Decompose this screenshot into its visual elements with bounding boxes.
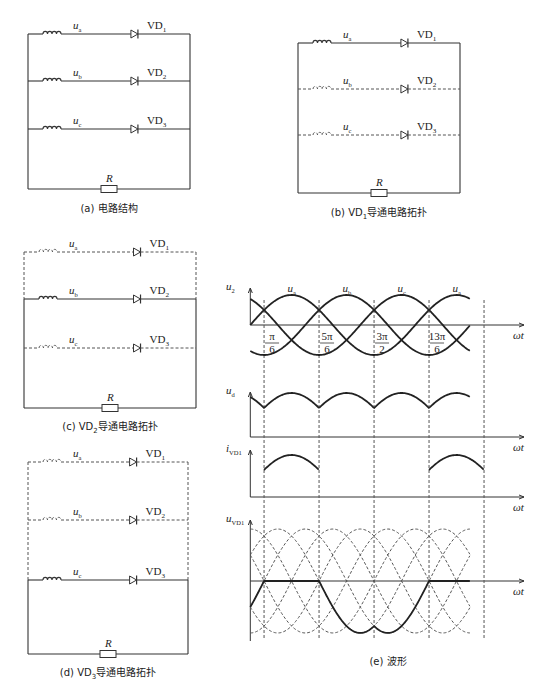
- diode-label: VD2: [147, 66, 167, 81]
- resistor-icon: [101, 186, 117, 193]
- curve-label: ua: [288, 282, 297, 296]
- inductor-icon: [313, 40, 331, 43]
- branch-b: ubVD2: [24, 284, 196, 304]
- resistor-label: R: [375, 176, 383, 188]
- waveform-panel: u2ωtudωtiVD1ωtuVD1ωtπ65π63π213π6uaubucua…: [226, 280, 525, 667]
- branch-a: uaVD1: [28, 19, 190, 39]
- circuit-panels: uaVD1ubVD2ucVD3R(a) 电路结构uaVD1ubVD2ucVD3R…: [24, 19, 460, 681]
- branch-a: uaVD1: [298, 28, 460, 48]
- diode-label: VD2: [417, 74, 437, 89]
- inductor-icon: [43, 517, 61, 520]
- diode-label: VD3: [146, 565, 166, 580]
- inductor-icon: [39, 345, 57, 348]
- y-axis-label: u2: [226, 280, 235, 294]
- voltage-label: ub: [73, 505, 82, 519]
- figure-canvas: uaVD1ubVD2ucVD3R(a) 电路结构uaVD1ubVD2ucVD3R…: [0, 0, 549, 691]
- resistor-label: R: [105, 172, 113, 184]
- voltage-label: ua: [73, 19, 82, 33]
- curve-label: uc: [398, 282, 407, 296]
- branch-b: ubVD2: [28, 66, 190, 86]
- circuit-a: uaVD1ubVD2ucVD3R(a) 电路结构: [28, 19, 190, 214]
- inductor-icon: [39, 249, 57, 252]
- plot-2: udωt: [226, 384, 525, 453]
- branch-b: ubVD2: [298, 74, 460, 94]
- inductor-icon: [43, 577, 61, 580]
- caption-e: (e) 波形: [369, 655, 406, 667]
- inductor-icon: [313, 132, 331, 135]
- diode-label: VD1: [417, 28, 437, 43]
- branch-c: ucVD3: [24, 333, 196, 353]
- voltage-label: ub: [69, 284, 78, 298]
- branch-c: ucVD3: [28, 114, 190, 134]
- diode-icon: [134, 344, 141, 353]
- diode-label: VD2: [146, 505, 166, 520]
- y-axis-label: iVD1: [226, 442, 242, 456]
- circuit-c: uaVD1ubVD2ucVD3R(c) VD2导通电路拓扑: [24, 237, 196, 435]
- y-axis-label: uVD1: [226, 512, 244, 526]
- diode-label: VD1: [146, 447, 166, 462]
- diode-icon: [134, 295, 141, 304]
- diode-label: VD2: [150, 284, 170, 299]
- branch-b: ubVD2: [28, 505, 188, 525]
- voltage-label: ub: [73, 66, 82, 80]
- curve-label: ub: [343, 282, 352, 296]
- x-axis-label: ωt: [513, 501, 525, 513]
- diode-label: VD3: [417, 120, 437, 135]
- inductor-icon: [39, 296, 57, 299]
- voltage-label: ua: [69, 237, 78, 251]
- x-axis-label: ωt: [513, 329, 525, 341]
- diode-label: VD1: [150, 237, 170, 252]
- ivd1-curve: [264, 455, 319, 470]
- inductor-icon: [43, 31, 61, 34]
- diode-icon: [131, 125, 138, 134]
- inductor-icon: [43, 459, 61, 462]
- inductor-icon: [313, 86, 331, 89]
- ivd1-curve: [429, 455, 484, 470]
- resistor-label: R: [104, 637, 112, 649]
- diode-icon: [130, 576, 137, 585]
- plot-3: iVD1ωt: [226, 442, 525, 513]
- voltage-label: ub: [343, 74, 352, 88]
- branch-c: ucVD3: [298, 120, 460, 140]
- y-axis-label: ud: [226, 384, 236, 398]
- caption-b: (b) VD1导通电路拓扑: [331, 206, 427, 221]
- voltage-label: ua: [343, 28, 352, 42]
- svg-text:13π: 13π: [429, 330, 446, 342]
- diode-icon: [130, 516, 137, 525]
- x-axis-label: ωt: [513, 441, 525, 453]
- diode-icon: [131, 30, 138, 39]
- circuit-d: uaVD1ubVD2ucVD3R(d) VD3导通电路拓扑: [28, 447, 188, 681]
- voltage-label: ua: [73, 447, 82, 461]
- voltage-label: uc: [73, 114, 82, 128]
- caption-c: (c) VD2导通电路拓扑: [62, 420, 158, 435]
- diode-label: VD1: [147, 19, 167, 34]
- curve-label: ua: [453, 282, 462, 296]
- resistor-icon: [371, 190, 387, 197]
- x-axis-label: ωt: [513, 585, 525, 597]
- branch-a: uaVD1: [28, 447, 188, 467]
- diode-icon: [134, 248, 141, 257]
- voltage-label: uc: [69, 333, 78, 347]
- inductor-icon: [43, 126, 61, 129]
- diode-label: VD3: [147, 114, 167, 129]
- ud-curve: [250, 393, 470, 408]
- caption-d: (d) VD3导通电路拓扑: [60, 666, 156, 681]
- voltage-label: uc: [343, 120, 352, 134]
- caption-a: (a) 电路结构: [80, 202, 137, 214]
- inductor-icon: [43, 78, 61, 81]
- resistor-icon: [100, 651, 116, 658]
- diode-label: VD3: [150, 333, 170, 348]
- diode-icon: [401, 85, 408, 94]
- resistor-icon: [102, 405, 118, 412]
- svg-text:5π: 5π: [322, 330, 334, 342]
- voltage-label: uc: [73, 565, 82, 579]
- branch-a: uaVD1: [24, 237, 196, 257]
- diode-icon: [401, 131, 408, 140]
- svg-text:3π: 3π: [377, 330, 389, 342]
- circuit-b: uaVD1ubVD2ucVD3R(b) VD1导通电路拓扑: [298, 28, 460, 221]
- resistor-label: R: [106, 391, 114, 403]
- diode-icon: [130, 458, 137, 467]
- diode-icon: [131, 77, 138, 86]
- diode-icon: [401, 39, 408, 48]
- branch-c: ucVD3: [28, 565, 188, 585]
